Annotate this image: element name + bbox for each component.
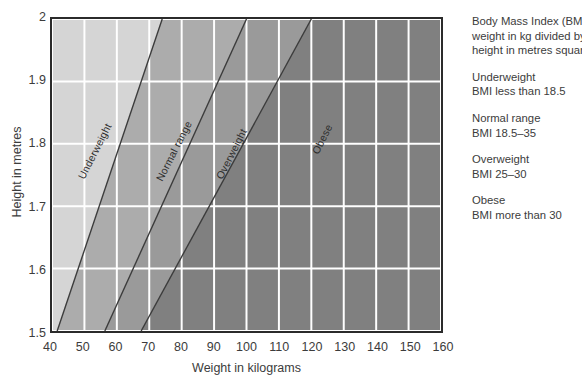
legend: Body Mass Index (BMI)= weight in kg divi… [472, 14, 580, 223]
legend-entry-detail: BMI more than 30 [472, 208, 580, 223]
legend-entry-overweight: Overweight BMI 25–30 [472, 152, 580, 181]
y-tick-label: 1.6 [4, 264, 46, 277]
legend-definition-line-2: weight in kg divided by [472, 29, 580, 44]
x-axis-title: Weight in kilograms [50, 361, 443, 375]
legend-definition-line-3: height in metres squared [472, 43, 580, 58]
legend-definition: Body Mass Index (BMI)= weight in kg divi… [472, 14, 580, 58]
legend-entry-detail: BMI 25–30 [472, 167, 580, 182]
plot-area: Underweight Normal range Overweight Obes… [50, 17, 443, 333]
legend-entry-title: Obese [472, 193, 580, 208]
y-axis-title: Height in metres [10, 112, 24, 232]
legend-entry-title: Overweight [472, 152, 580, 167]
x-tick-label: 160 [423, 341, 463, 354]
legend-definition-line-1: Body Mass Index (BMI)= [472, 14, 580, 29]
x-axis-ticks: 405060708090100110120130140150160 [0, 341, 582, 359]
legend-entry-title: Normal range [472, 111, 580, 126]
bmi-chart-figure: Underweight Normal range Overweight Obes… [0, 0, 582, 386]
legend-entry-underweight: Underweight BMI less than 18.5 [472, 70, 580, 99]
legend-entry-obese: Obese BMI more than 30 [472, 193, 580, 222]
legend-entry-detail: BMI 18.5–35 [472, 126, 580, 141]
legend-entry-detail: BMI less than 18.5 [472, 84, 580, 99]
legend-entry-normal-range: Normal range BMI 18.5–35 [472, 111, 580, 140]
y-tick-label: 1.5 [4, 327, 46, 340]
y-tick-label: 2 [4, 11, 46, 24]
plot-svg [52, 19, 441, 331]
legend-entry-title: Underweight [472, 70, 580, 85]
y-tick-label: 1.9 [4, 74, 46, 87]
